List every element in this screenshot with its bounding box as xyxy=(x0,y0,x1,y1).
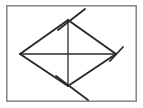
geometry-diagram-canvas xyxy=(0,0,143,108)
geometry-figure-container: Rhombus with diagonals and congruence ti… xyxy=(0,0,143,108)
